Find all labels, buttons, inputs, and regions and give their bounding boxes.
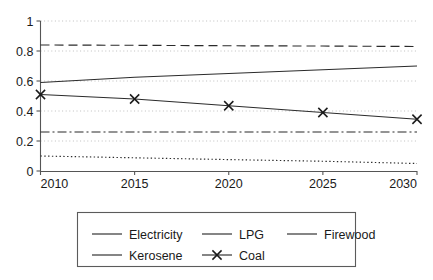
y-tick-label: 0.8 xyxy=(16,45,33,59)
series-lines xyxy=(41,45,418,164)
x-tick-label: 2025 xyxy=(309,177,337,191)
legend-label-lpg: LPG xyxy=(239,228,264,242)
y-tick-label: 0 xyxy=(27,165,34,179)
legend-label-kerosene: Kerosene xyxy=(129,249,183,263)
line-chart: 00.20.40.60.81 20102015202020252030 Elec… xyxy=(0,0,433,280)
gridlines xyxy=(41,21,418,141)
legend-label-firewood: Firewood xyxy=(324,228,375,242)
x-tick-label: 2030 xyxy=(389,177,417,191)
y-tick-label: 0.6 xyxy=(16,75,33,89)
chart-figure: 00.20.40.60.81 20102015202020252030 Elec… xyxy=(0,0,433,280)
chart-legend: ElectricityLPGFirewoodKeroseneCoal xyxy=(78,213,376,267)
x-tick-label: 2010 xyxy=(41,177,69,191)
series-line-lpg xyxy=(41,45,418,47)
legend-label-coal: Coal xyxy=(239,249,265,263)
x-axis-tick-labels: 20102015202020252030 xyxy=(41,177,418,191)
series-line-electricity xyxy=(41,66,418,83)
series-markers xyxy=(36,90,422,124)
series-line-coal xyxy=(41,95,418,120)
x-tick-label: 2020 xyxy=(215,177,243,191)
y-axis-tick-labels: 00.20.40.60.81 xyxy=(16,15,33,179)
y-tick-label: 0.2 xyxy=(16,135,33,149)
y-tick-label: 0.4 xyxy=(16,105,33,119)
series-line-firewood xyxy=(41,156,418,164)
x-tick-label: 2015 xyxy=(121,177,149,191)
y-tick-label: 1 xyxy=(27,15,34,29)
legend-border xyxy=(78,213,356,267)
legend-label-electricity: Electricity xyxy=(129,228,183,242)
